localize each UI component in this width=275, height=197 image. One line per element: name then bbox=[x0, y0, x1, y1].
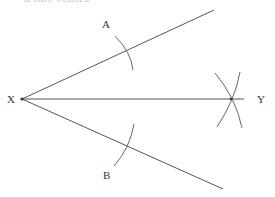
bisector-diagram: X Y A B bbox=[0, 0, 275, 197]
label-y: Y bbox=[257, 93, 265, 105]
arc-a bbox=[115, 36, 133, 70]
lower-ray bbox=[22, 99, 223, 189]
label-a: A bbox=[102, 18, 110, 30]
label-b: B bbox=[103, 169, 110, 181]
vertex-point-x bbox=[20, 97, 23, 100]
upper-ray bbox=[22, 10, 214, 99]
intersection-point-y bbox=[230, 98, 233, 101]
label-x: X bbox=[7, 93, 15, 105]
